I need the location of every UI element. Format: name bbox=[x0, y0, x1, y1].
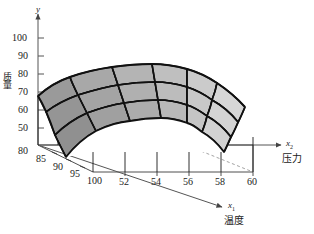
y-tick-80: 80 bbox=[18, 68, 28, 79]
x1-tick-85: 85 bbox=[36, 153, 46, 164]
y-tick-100: 100 bbox=[12, 32, 27, 43]
y-tick-70: 70 bbox=[18, 86, 28, 97]
response-surface-figure: 100 90 80 70 60 50 y 质量 80 85 90 95 100 … bbox=[0, 0, 314, 234]
x2-tick-60: 60 bbox=[247, 176, 257, 187]
y-tick-50: 50 bbox=[18, 122, 28, 133]
y-tick-60: 60 bbox=[18, 104, 28, 115]
x2-tick-58: 58 bbox=[215, 176, 225, 187]
x1-tick-95: 95 bbox=[70, 168, 80, 179]
x2-tick-52: 52 bbox=[119, 176, 129, 187]
y-axis-name: 质量 bbox=[1, 72, 14, 88]
x2-tick-56: 56 bbox=[183, 176, 193, 187]
y-axis-symbol: y bbox=[36, 4, 40, 14]
x1-axis-symbol: x1 bbox=[228, 200, 235, 212]
y-axis bbox=[38, 14, 44, 145]
x1-tick-100: 100 bbox=[87, 175, 102, 186]
x2-tick-54: 54 bbox=[151, 176, 161, 187]
x1-tick-90: 90 bbox=[53, 161, 63, 172]
x2-axis-symbol: x2 bbox=[286, 138, 293, 150]
x1-tick-80: 80 bbox=[18, 145, 28, 156]
x2-axis-name: 压力 bbox=[282, 150, 302, 165]
y-tick-90: 90 bbox=[18, 50, 28, 61]
x1-axis-name: 温度 bbox=[224, 212, 244, 227]
x1-symbol-sub: 1 bbox=[232, 206, 235, 212]
x2-symbol-sub: 2 bbox=[290, 144, 293, 150]
surface-plot-canvas bbox=[0, 0, 314, 234]
